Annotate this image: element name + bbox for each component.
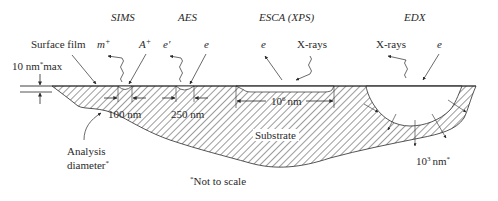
analysis-diameter-pointer [84,113,101,140]
surface-film-pointer [72,55,96,84]
edx-primary-electron-arrow [423,54,439,80]
technique-title-sims: SIMS [111,11,135,23]
aes-auger-electron-wavy-arrow [170,56,183,82]
analysis-diameter-label-line1: Analysis [67,145,106,157]
film-thickness-label: 10 nm*max [12,60,63,72]
sims-signal-a-plus: A+ [138,37,151,50]
surface-analysis-diagram: SIMS AES ESCA (XPS) EDX 10 nm*max Surfac… [0,0,498,201]
surface-film-label: Surface film [31,38,86,50]
aes-signal-e-prime: e′ [163,38,171,50]
esca-analysis-region [236,86,334,92]
edx-depth-label: 103nm* [416,155,451,167]
esca-xray-wavy-arrow [296,56,312,80]
edx-xray-wavy-arrow [388,56,408,78]
footnote: *Not to scale [190,175,246,187]
technique-title-aes: AES [177,11,197,23]
technique-title-esca: ESCA (XPS) [258,11,314,24]
sims-secondary-ion-wavy-arrow [108,56,124,82]
sims-primary-ion-arrow [129,54,146,84]
edx-signal-xrays: X-rays [376,38,406,50]
edx-signal-e: e [437,38,442,50]
aes-analysis-width: 250 nm [171,108,205,120]
substrate-label: Substrate [255,129,296,141]
aes-primary-electron-arrow [190,54,206,84]
esca-signal-e: e [261,38,266,50]
sims-signal-m-plus: m+ [97,37,110,50]
technique-title-edx: EDX [403,11,427,23]
sims-analysis-width: 100 nm [108,108,142,120]
aes-signal-e: e [204,38,209,50]
analysis-diameter-label-line2: diameter* [67,159,109,171]
esca-signal-xrays: X-rays [297,38,327,50]
esca-photoelectron-arrow [265,56,282,80]
